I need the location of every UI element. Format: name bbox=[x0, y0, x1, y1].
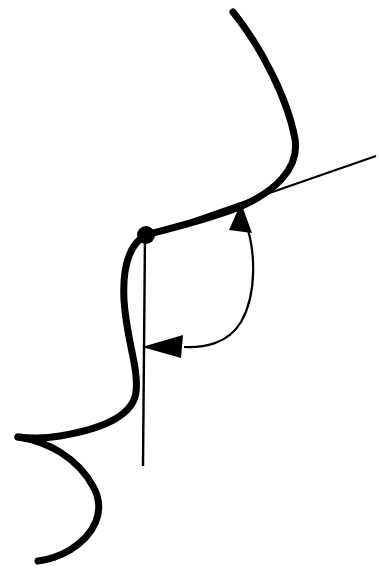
point-marker-dot bbox=[137, 226, 155, 244]
figure-canvas bbox=[0, 0, 379, 572]
geometry-figure bbox=[0, 0, 379, 572]
figure-background bbox=[0, 0, 379, 572]
